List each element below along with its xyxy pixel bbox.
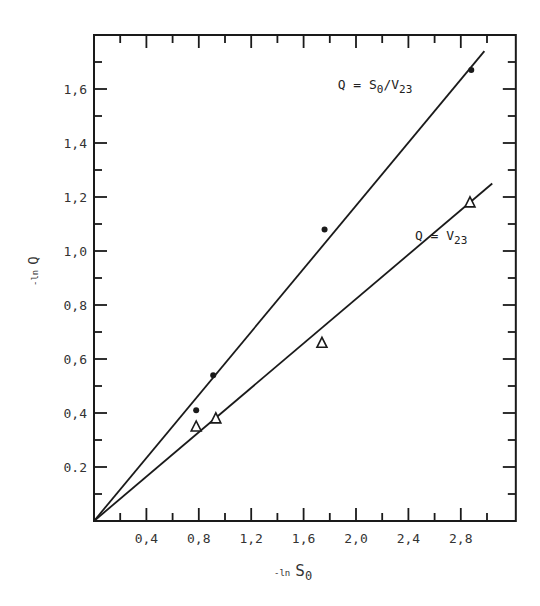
x-tick-labels: 0,40,81,21,62,02,42,8 [135, 531, 473, 546]
x-tick-label: 2,0 [344, 531, 367, 546]
y-tick-label: 0,4 [64, 406, 88, 421]
fit-lines [94, 51, 492, 521]
data-point-filled-circle [468, 67, 474, 73]
data-point-open-triangle [191, 421, 201, 431]
data-point-open-triangle [317, 337, 327, 347]
x-axis-label-sub: 0 [305, 569, 312, 583]
axis-ticks [94, 35, 516, 521]
y-tick-label: 0,8 [64, 298, 87, 313]
y-axis-label: -lnQ [25, 256, 41, 286]
x-tick-label: 1,2 [239, 531, 262, 546]
y-tick-label: 1,6 [64, 82, 87, 97]
x-axis-label-prefix: -ln [274, 568, 290, 578]
x-tick-label: 0,8 [187, 531, 210, 546]
fit-line-series-0 [94, 51, 484, 521]
plot-border [94, 35, 516, 521]
data-markers [191, 67, 475, 431]
plot-frame [94, 35, 516, 521]
x-tick-label: 2,4 [397, 531, 421, 546]
y-tick-label: 1,4 [64, 136, 88, 151]
x-axis-label: -lnS0 [274, 561, 312, 583]
y-axis-label-main: Q [25, 256, 41, 264]
y-tick-label: 1,0 [64, 244, 87, 259]
y-axis-label-prefix: -ln [30, 270, 40, 286]
chart: 0,40,81,21,62,02,42,8 0.20,40,60,81,01,2… [0, 0, 540, 606]
y-tick-labels: 0.20,40,60,81,01,21,41,6 [64, 82, 88, 475]
data-point-filled-circle [193, 407, 199, 413]
x-tick-label: 0,4 [135, 531, 159, 546]
x-tick-label: 2,8 [449, 531, 472, 546]
y-tick-label: 0,6 [64, 352, 87, 367]
y-tick-label: 0.2 [64, 460, 87, 475]
series-label-0: Q = S0/V23 [338, 77, 413, 96]
y-tick-label: 1,2 [64, 190, 87, 205]
data-point-filled-circle [210, 372, 216, 378]
x-tick-label: 1,6 [292, 531, 315, 546]
series-label-1: Q = V23 [415, 228, 467, 247]
x-axis-label-main: S [295, 561, 305, 580]
data-point-filled-circle [322, 226, 328, 232]
